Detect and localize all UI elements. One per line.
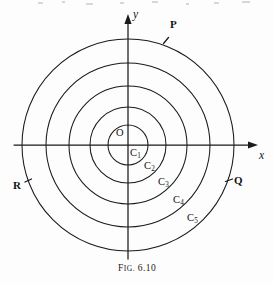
point-label-r: R bbox=[13, 180, 21, 191]
tick-mark-p bbox=[164, 38, 169, 44]
figure-drawing bbox=[0, 0, 274, 283]
curve-label-c2: C2 bbox=[144, 161, 155, 172]
curve-label-c5-letter: C bbox=[187, 212, 194, 223]
axes-group bbox=[14, 14, 258, 259]
curve-label-c1-subscript: 1 bbox=[137, 152, 141, 160]
curve-label-c5: C5 bbox=[187, 213, 198, 224]
origin-label: O bbox=[116, 128, 124, 139]
curve-label-c2-subscript: 2 bbox=[151, 165, 155, 173]
caption-smallcaps: IG. bbox=[124, 264, 135, 273]
curve-label-c3: C3 bbox=[158, 177, 169, 188]
curve-label-c3-subscript: 3 bbox=[165, 181, 169, 189]
curve-label-c4-subscript: 4 bbox=[180, 199, 184, 207]
x-axis-label: x bbox=[259, 150, 264, 162]
curve-label-c2-letter: C bbox=[144, 160, 151, 171]
curve-label-c4-letter: C bbox=[173, 194, 180, 205]
curve-label-c1-letter: C bbox=[130, 147, 137, 158]
caption-number: 6.10 bbox=[138, 263, 156, 273]
curve-label-c3-letter: C bbox=[158, 176, 165, 187]
tick-mark-q bbox=[226, 179, 233, 182]
curve-label-c5-subscript: 5 bbox=[194, 217, 198, 225]
curve-label-c1: C1 bbox=[130, 148, 141, 159]
point-label-p: P bbox=[170, 19, 177, 30]
figure-container: O x y P Q R C1 C2 C3 C4 C5 FIG. 6.10 bbox=[0, 0, 274, 283]
point-label-q: Q bbox=[234, 175, 243, 186]
y-axis-arrowhead bbox=[124, 14, 131, 24]
curve-label-c4: C4 bbox=[173, 195, 184, 206]
figure-caption: FIG. 6.10 bbox=[0, 263, 274, 273]
x-axis-arrowhead bbox=[248, 141, 258, 148]
y-axis-label: y bbox=[133, 9, 138, 21]
point-tick-marks-group bbox=[25, 38, 233, 183]
